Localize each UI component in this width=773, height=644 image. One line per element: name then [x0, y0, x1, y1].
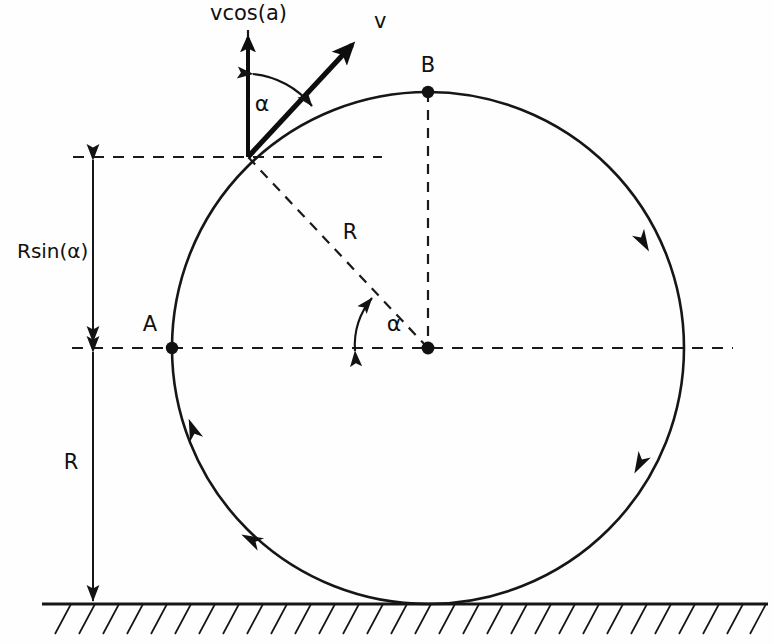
alpha-angle-arc-center: [355, 298, 372, 351]
radius-diagonal-label: R: [343, 220, 358, 244]
figure-text-labels: vcos(a) v α α A B R Rsin(α) R: [17, 1, 435, 474]
velocity-label: v: [374, 9, 386, 33]
ground-surface: [42, 604, 768, 634]
physics-diagram-canvas: vcos(a) v α α A B R Rsin(α) R: [0, 0, 773, 644]
vcos-label: vcos(a): [210, 1, 287, 25]
alpha-label-top: α: [255, 91, 270, 116]
dimension-rsin-label: Rsin(α): [17, 239, 88, 263]
rotation-direction-markers: [182, 229, 655, 551]
rolling-circle-figure: vcos(a) v α α A B R Rsin(α) R: [0, 0, 773, 644]
construction-lines: [72, 30, 733, 348]
rotation-arrow-lower-right: [628, 451, 651, 477]
point-b-dot: [422, 86, 434, 98]
dimension-r-label: R: [64, 450, 79, 474]
alpha-angle-arc-center-group: [355, 298, 372, 351]
alpha-label-center: α: [387, 311, 402, 336]
circle-center-dot: [422, 342, 435, 355]
rotation-arrow-upper-right: [632, 229, 655, 255]
point-a-label: A: [143, 312, 158, 336]
point-b-label: B: [421, 53, 435, 77]
point-a-dot: [166, 342, 178, 354]
ground-hatching: [55, 604, 766, 634]
